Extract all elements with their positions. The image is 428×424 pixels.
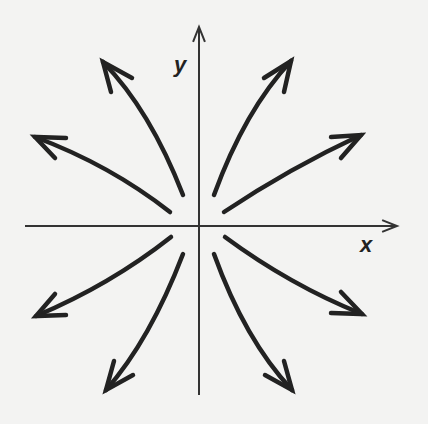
axes — [25, 27, 397, 395]
phase-portrait-diagram: x y — [0, 0, 428, 424]
x-axis-label: x — [359, 232, 373, 257]
arrow-lower-left-shallow — [36, 237, 171, 316]
arrow-upper-left-shallow — [35, 137, 170, 212]
arrow-upper-right-shallow — [224, 135, 361, 212]
arrow-lower-right-shallow — [225, 237, 362, 314]
y-axis-label: y — [173, 52, 188, 77]
